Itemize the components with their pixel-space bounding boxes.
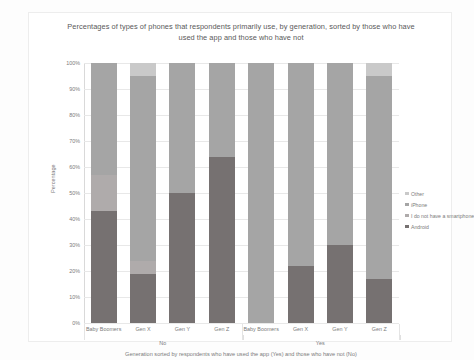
- y-axis-tick-label: 10%: [69, 294, 80, 300]
- legend-item-label: iPhone: [411, 202, 427, 208]
- bar-segment[interactable]: [130, 63, 156, 76]
- bar-segment[interactable]: [366, 63, 392, 76]
- bar-segment[interactable]: [91, 63, 117, 175]
- legend-swatch-icon: [405, 225, 409, 229]
- legend-swatch-icon: [405, 192, 409, 196]
- y-axis-tick-label: 90%: [69, 86, 80, 92]
- y-axis-tick-label: 50%: [69, 190, 80, 196]
- bar-column[interactable]: [288, 63, 314, 323]
- legend-item-label: Android: [411, 224, 429, 230]
- bar-column[interactable]: [366, 63, 392, 323]
- x-axis-tick-label: Gen Z: [353, 326, 405, 332]
- bar-segment[interactable]: [327, 245, 353, 323]
- bar-column[interactable]: [169, 63, 195, 323]
- bar-segment[interactable]: [91, 175, 117, 211]
- legend-item[interactable]: I do not have a smartphone: [405, 211, 474, 220]
- bar-segment[interactable]: [91, 211, 117, 323]
- bar-segment[interactable]: [288, 266, 314, 323]
- bar-segment[interactable]: [288, 63, 314, 266]
- chart-title: Percentages of types of phones that resp…: [63, 21, 419, 43]
- bar-segment[interactable]: [327, 63, 353, 245]
- bar-segment[interactable]: [366, 76, 392, 279]
- x-axis-title: Generation sorted by respondents who hav…: [63, 351, 419, 357]
- bar-segment[interactable]: [248, 63, 274, 323]
- y-axis-title: Percentage: [50, 164, 56, 193]
- x-axis-group-label: Yes: [242, 340, 400, 346]
- bar-segment[interactable]: [209, 157, 235, 323]
- bar-column[interactable]: [327, 63, 353, 323]
- legend-swatch-icon: [405, 214, 409, 218]
- legend-item-label: Other: [411, 191, 424, 197]
- x-axis-group-separator: [399, 324, 400, 340]
- bar-segment[interactable]: [366, 279, 392, 323]
- legend-item-label: I do not have a smartphone: [411, 213, 474, 219]
- y-axis-tick-label: 100%: [66, 60, 80, 66]
- y-axis-tick-label: 20%: [69, 268, 80, 274]
- y-axis-tick-label: 70%: [69, 138, 80, 144]
- bar-segment[interactable]: [209, 63, 235, 157]
- legend-item[interactable]: Android: [405, 222, 474, 231]
- bar-column[interactable]: [130, 63, 156, 323]
- plot-area: 0%10%20%30%40%50%60%70%80%90%100%: [84, 63, 399, 323]
- chart-legend: OtheriPhoneI do not have a smartphoneAnd…: [405, 189, 474, 233]
- x-axis-group-separator: [84, 324, 85, 340]
- bar-segment[interactable]: [169, 193, 195, 323]
- legend-item[interactable]: Other: [405, 189, 474, 198]
- bar-column[interactable]: [209, 63, 235, 323]
- bar-column[interactable]: [248, 63, 274, 323]
- y-axis-tick-label: 40%: [69, 216, 80, 222]
- x-axis-group-label: No: [84, 340, 242, 346]
- y-axis-tick-label: 30%: [69, 242, 80, 248]
- legend-swatch-icon: [405, 203, 409, 207]
- scanned-page: Percentages of types of phones that resp…: [0, 0, 474, 360]
- x-axis-group-separator: [242, 324, 243, 340]
- bar-column[interactable]: [91, 63, 117, 323]
- bar-segment[interactable]: [130, 274, 156, 323]
- chart-card: Percentages of types of phones that resp…: [28, 12, 452, 342]
- y-axis-tick-label: 80%: [69, 112, 80, 118]
- legend-item[interactable]: iPhone: [405, 200, 474, 209]
- y-axis-tick-label: 60%: [69, 164, 80, 170]
- bar-segment[interactable]: [130, 76, 156, 261]
- bar-segment[interactable]: [130, 261, 156, 274]
- bar-segment[interactable]: [169, 63, 195, 193]
